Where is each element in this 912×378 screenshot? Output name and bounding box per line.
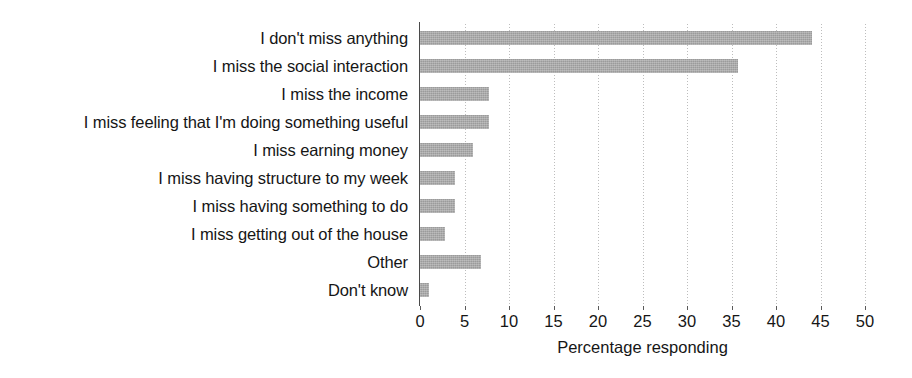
category-label-6: I miss having something to do bbox=[193, 192, 408, 220]
tick-label-0: 0 bbox=[415, 311, 424, 331]
tick-label-30: 30 bbox=[678, 311, 696, 331]
category-label-3: I miss feeling that I'm doing something … bbox=[84, 108, 408, 136]
bar-chart: I don't miss anything I miss the social … bbox=[0, 0, 912, 378]
gridline-45 bbox=[821, 24, 822, 304]
bar-3 bbox=[420, 115, 489, 129]
tick-mark-40 bbox=[776, 306, 777, 310]
category-label-4: I miss earning money bbox=[253, 136, 408, 164]
tick-mark-15 bbox=[554, 306, 555, 310]
tick-label-5: 5 bbox=[460, 311, 469, 331]
bar-8 bbox=[420, 255, 481, 269]
category-label-1: I miss the social interaction bbox=[213, 52, 408, 80]
tick-label-25: 25 bbox=[633, 311, 651, 331]
tick-label-15: 15 bbox=[544, 311, 562, 331]
tick-label-20: 20 bbox=[589, 311, 607, 331]
bar-9 bbox=[420, 283, 429, 297]
tick-label-50: 50 bbox=[856, 311, 874, 331]
tick-label-40: 40 bbox=[767, 311, 785, 331]
bar-0 bbox=[420, 31, 812, 45]
gridline-50 bbox=[865, 24, 866, 304]
bar-7 bbox=[420, 227, 445, 241]
tick-mark-5 bbox=[465, 306, 466, 310]
tick-label-35: 35 bbox=[722, 311, 740, 331]
tick-mark-10 bbox=[509, 306, 510, 310]
bar-6 bbox=[420, 199, 455, 213]
plot-area bbox=[420, 24, 865, 304]
category-label-7: I miss getting out of the house bbox=[191, 220, 408, 248]
bar-5 bbox=[420, 171, 455, 185]
category-axis-labels: I don't miss anything I miss the social … bbox=[0, 24, 414, 304]
tick-mark-20 bbox=[598, 306, 599, 310]
value-axis: 05101520253035404550 bbox=[420, 306, 865, 332]
bar-4 bbox=[420, 143, 473, 157]
tick-mark-35 bbox=[732, 306, 733, 310]
tick-mark-50 bbox=[865, 306, 866, 310]
category-label-2: I miss the income bbox=[281, 80, 408, 108]
tick-mark-30 bbox=[687, 306, 688, 310]
category-label-5: I miss having structure to my week bbox=[158, 164, 408, 192]
tick-label-45: 45 bbox=[811, 311, 829, 331]
tick-mark-45 bbox=[821, 306, 822, 310]
category-label-0: I don't miss anything bbox=[260, 24, 408, 52]
tick-mark-0 bbox=[420, 306, 421, 310]
bar-2 bbox=[420, 87, 489, 101]
tick-mark-25 bbox=[643, 306, 644, 310]
category-label-8: Other bbox=[367, 248, 408, 276]
bar-1 bbox=[420, 59, 738, 73]
tick-label-10: 10 bbox=[500, 311, 518, 331]
category-label-9: Don't know bbox=[328, 276, 408, 304]
x-axis-title: Percentage responding bbox=[420, 338, 865, 357]
gridline-40 bbox=[776, 24, 777, 304]
